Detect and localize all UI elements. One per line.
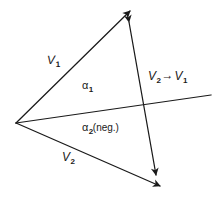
angle-alpha2-note: (neg.): [93, 122, 119, 133]
angle-alpha1-symbol: α: [82, 79, 88, 91]
vector-v1-label: V1: [47, 54, 60, 66]
transition-to-symbol: V: [174, 69, 182, 83]
vector-v1-subscript: 1: [56, 59, 61, 68]
transition-arrow-line: [129, 22, 156, 175]
reference-line: [16, 95, 211, 123]
right-arrow-icon: →: [160, 69, 174, 81]
angle-alpha2-label: α2(neg.): [82, 122, 119, 133]
angle-alpha2-symbol: α: [82, 121, 88, 133]
vector-v2-symbol: V: [62, 150, 70, 164]
transition-to-subscript: 1: [183, 76, 187, 85]
transition-label: V2→V1: [148, 70, 187, 82]
angle-alpha1-label: α1: [82, 80, 93, 91]
diagram-canvas: [0, 0, 217, 197]
vector-diagram: V1 V2 α1 α2(neg.) V2→V1: [0, 0, 217, 197]
vector-v1-line: [16, 11, 130, 123]
vector-v1-symbol: V: [47, 53, 55, 67]
angle-alpha1-subscript: 1: [89, 85, 93, 94]
vector-v2-subscript: 2: [71, 157, 75, 166]
angle-alpha2-subscript: 2: [89, 127, 93, 136]
vector-v2-label: V2: [62, 151, 74, 163]
transition-from-symbol: V: [148, 69, 156, 83]
